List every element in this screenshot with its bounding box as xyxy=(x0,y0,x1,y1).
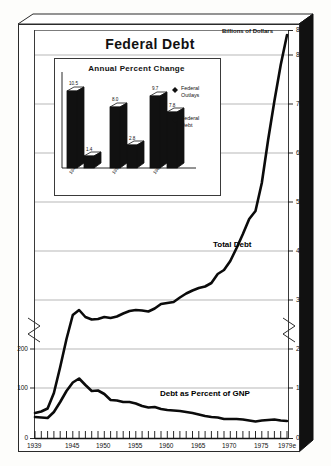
x-tick-1950: 1950 xyxy=(96,442,110,449)
legend-label-outlays: Federal Outlays xyxy=(181,85,199,99)
x-tick-1970: 1970 xyxy=(222,442,236,449)
left-tick-100: 100 xyxy=(12,384,28,391)
x-tick-1960: 1960 xyxy=(159,442,173,449)
right-tick-0: 0 xyxy=(296,434,300,441)
legend-outlays-line1: Federal xyxy=(181,85,199,92)
legend-label-debt: Federal Debt xyxy=(181,115,199,129)
label-total-debt: Total Debt xyxy=(213,240,252,249)
x-tick-1945: 1945 xyxy=(65,442,79,449)
legend-debt-line1: Federal xyxy=(181,115,199,122)
right-tick-300: 300 xyxy=(296,296,307,303)
barval-debt-1: 1.4 xyxy=(86,147,92,152)
x-tick-marks xyxy=(35,431,287,438)
figure-root: Federal Debt Billions of Dollars 850 800… xyxy=(0,0,331,466)
right-tick-800: 800 xyxy=(296,51,307,58)
right-tick-500: 500 xyxy=(296,198,307,205)
right-tick-400: 400 xyxy=(296,247,307,254)
units-label: Billions of Dollars xyxy=(222,28,273,34)
left-tick-200: 200 xyxy=(12,345,28,352)
right-tick-100-lower: 100 xyxy=(296,384,307,391)
x-tick-1965: 1965 xyxy=(191,442,205,449)
barval-outlays-2: 8.0 xyxy=(112,97,118,102)
right-tick-850: 850 xyxy=(296,26,307,33)
right-tick-700: 700 xyxy=(296,100,307,107)
slab-top-bevel xyxy=(18,14,313,24)
chart-title: Federal Debt xyxy=(60,36,240,52)
right-tick-200: 200 xyxy=(296,345,307,352)
left-tick-0: 0 xyxy=(12,434,28,441)
inset-title: Annual Percent Change xyxy=(54,64,219,73)
barval-outlays-3: 9.7 xyxy=(152,86,158,91)
barval-debt-3: 7.8 xyxy=(169,103,175,108)
label-debt-pct-gnp: Debt as Percent of GNP xyxy=(160,389,250,398)
legend-outlays-line2: Outlays xyxy=(181,92,199,99)
x-tick-1975: 1975 xyxy=(254,442,268,449)
x-tick-1979e: 1979e xyxy=(278,442,296,449)
x-tick-1939: 1939 xyxy=(27,442,41,449)
barval-debt-2: 2.8 xyxy=(129,136,135,141)
legend-debt-line2: Debt xyxy=(181,122,199,129)
right-tick-600: 600 xyxy=(296,149,307,156)
barval-outlays-1: 10.5 xyxy=(69,81,78,86)
x-tick-1955: 1955 xyxy=(128,442,142,449)
